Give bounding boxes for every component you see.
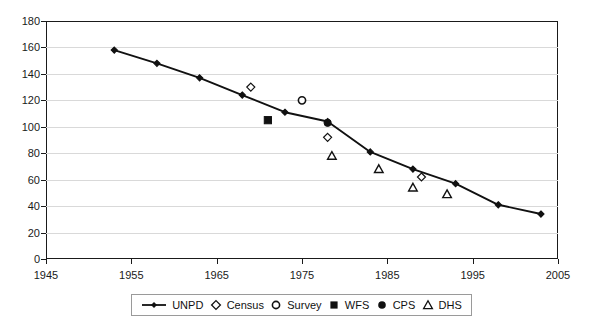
y-axis-tick (41, 127, 46, 128)
y-axis-tick-label: 60 (2, 175, 40, 186)
y-axis-tick (41, 47, 46, 48)
open-triangle-icon (422, 299, 434, 311)
y-axis-tick-label: 100 (2, 122, 40, 133)
filled-square-icon (328, 299, 340, 311)
gridline (46, 100, 558, 101)
legend-item-label: Survey (287, 300, 321, 311)
legend-item-dhs[interactable]: DHS (422, 299, 462, 311)
x-axis-tick (558, 259, 559, 264)
y-axis-tick-label: 0 (2, 254, 40, 265)
x-axis-tick-label: 1965 (187, 270, 247, 281)
y-axis-tick (41, 100, 46, 101)
chart-container: 020406080100120140160180 194519551965197… (0, 0, 603, 327)
x-axis-tick-label: 1945 (16, 270, 76, 281)
y-axis-tick-label: 180 (2, 16, 40, 27)
x-axis-tick-label: 1995 (443, 270, 503, 281)
x-axis-tick (46, 259, 47, 264)
legend-item-label: WFS (345, 300, 369, 311)
gridline (46, 206, 558, 207)
y-axis-tick-label: 140 (2, 69, 40, 80)
x-axis-tick (387, 259, 388, 264)
filled-circle-icon (376, 299, 388, 311)
open-diamond-icon (210, 299, 222, 311)
x-axis-tick-label: 1975 (272, 270, 332, 281)
legend-item-label: CPS (393, 300, 416, 311)
y-axis-tick (41, 233, 46, 234)
legend-item-cps[interactable]: CPS (376, 299, 416, 311)
legend-item-label: UNPD (172, 300, 203, 311)
gridline (46, 127, 558, 128)
x-axis-tick (473, 259, 474, 264)
open-circle-icon (270, 299, 282, 311)
y-axis-tick-label: 40 (2, 201, 40, 212)
y-axis-tick (41, 153, 46, 154)
gridline (46, 47, 558, 48)
x-axis-tick-label: 1955 (101, 270, 161, 281)
legend-item-census[interactable]: Census (210, 299, 264, 311)
x-axis-tick-label: 1985 (357, 270, 417, 281)
y-axis-tick-label: 120 (2, 95, 40, 106)
gridline (46, 233, 558, 234)
x-axis-tick (131, 259, 132, 264)
legend-item-label: Census (227, 300, 264, 311)
line-diamond-icon (141, 299, 167, 311)
x-axis-tick (217, 259, 218, 264)
legend-item-label: DHS (439, 300, 462, 311)
plot-area (46, 21, 558, 259)
y-axis-tick-label: 80 (2, 148, 40, 159)
legend-item-survey[interactable]: Survey (270, 299, 321, 311)
y-axis-tick-label: 160 (2, 42, 40, 53)
gridline (46, 180, 558, 181)
x-axis-tick (302, 259, 303, 264)
legend-item-wfs[interactable]: WFS (328, 299, 369, 311)
x-axis-tick-label: 2005 (528, 270, 588, 281)
y-axis-tick (41, 21, 46, 22)
chart-legend: UNPDCensusSurveyWFSCPSDHS (131, 294, 472, 316)
y-axis-tick-label: 20 (2, 228, 40, 239)
gridline (46, 74, 558, 75)
y-axis-tick (41, 206, 46, 207)
y-axis-tick (41, 74, 46, 75)
y-axis-tick (41, 180, 46, 181)
legend-item-unpd[interactable]: UNPD (141, 299, 203, 311)
gridline (46, 153, 558, 154)
